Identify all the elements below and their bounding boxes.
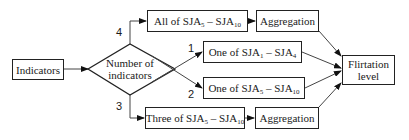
all-of-label: All of SJA5 – SJA10 [154,15,241,27]
decision-node: Number of indicators [100,57,160,81]
aggregation-top-node: Aggregation [256,10,319,32]
edge-label-3: 3 [116,101,122,112]
edge-label-2: 2 [188,89,194,100]
edge-label-1: 1 [188,43,194,54]
three-of-node: Three of SJA5 – SJA10 [145,107,245,129]
aggregation-bottom-label: Aggregation [260,112,315,124]
indicators-node: Indicators [12,59,64,80]
output-node: Flirtation level [342,55,395,85]
one-of-b-label: One of SJA5 – SJA10 [208,82,299,94]
one-of-a-label: One of SJA1 – SJA4 [209,46,297,58]
indicators-label: Indicators [16,64,60,76]
all-of-node: All of SJA5 – SJA10 [147,10,248,32]
edge-label-4: 4 [116,27,122,38]
decision-label-line1: Number of [100,57,160,69]
one-of-b-node: One of SJA5 – SJA10 [203,77,305,99]
output-label-line2: level [358,70,379,82]
aggregation-top-label: Aggregation [260,15,315,27]
decision-label-line2: indicators [100,69,160,81]
three-of-label: Three of SJA5 – SJA10 [146,112,245,124]
aggregation-bottom-node: Aggregation [255,107,319,129]
one-of-a-node: One of SJA1 – SJA4 [203,41,302,63]
output-label-line1: Flirtation [348,58,389,70]
